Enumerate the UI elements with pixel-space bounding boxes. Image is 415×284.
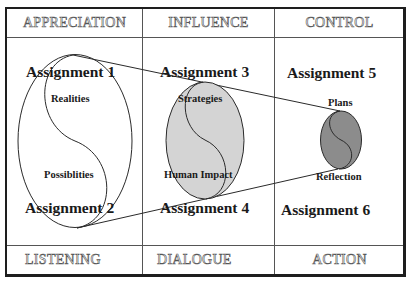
label-plans: Plans (328, 97, 353, 108)
assignment-3: Assignment 3 (160, 63, 249, 81)
ellipse-diagram (0, 0, 415, 284)
label-human-impact: Human Impact (164, 169, 233, 180)
assignment-1: Assignment 1 (26, 63, 115, 81)
assignment-4: Assignment 4 (160, 199, 249, 217)
label-reflection: Reflection (316, 171, 361, 182)
assignment-2: Assignment 2 (25, 199, 114, 217)
assignment-6: Assignment 6 (281, 201, 370, 219)
label-strategies: Strategies (178, 93, 222, 104)
assignment-5: Assignment 5 (287, 64, 376, 82)
label-possiblities: Possiblities (44, 169, 94, 180)
label-realities: Realities (51, 93, 90, 104)
